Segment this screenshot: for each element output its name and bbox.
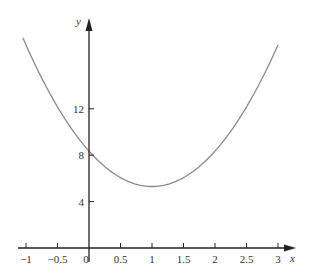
axes xyxy=(18,18,296,262)
y-tick-label: 12 xyxy=(73,103,84,115)
x-tick-label: 0.5 xyxy=(114,253,128,265)
x-tick-label: 3 xyxy=(275,253,281,265)
x-tick-label: 2.5 xyxy=(240,253,254,265)
x-tick-label: −1 xyxy=(20,253,32,265)
x-tick-label: 2 xyxy=(212,253,218,265)
x-tick-label: 0 xyxy=(83,253,89,265)
x-tick-label: 1.5 xyxy=(177,253,191,265)
chart: −1−0.500.511.522.53 4812 x y xyxy=(0,0,311,276)
y-axis-label: y xyxy=(75,15,81,27)
x-tick-label: 1 xyxy=(149,253,155,265)
y-ticks: 4812 xyxy=(73,103,94,208)
x-axis-arrow-icon xyxy=(284,245,296,252)
y-tick-label: 8 xyxy=(79,149,85,161)
x-tick-label: −0.5 xyxy=(48,253,68,265)
parabola-curve xyxy=(23,38,278,187)
x-axis-label: x xyxy=(289,252,295,264)
x-ticks: −1−0.500.511.522.53 xyxy=(20,243,281,265)
curve xyxy=(23,38,278,187)
y-axis-arrow-icon xyxy=(86,18,93,31)
y-tick-label: 4 xyxy=(79,196,85,208)
